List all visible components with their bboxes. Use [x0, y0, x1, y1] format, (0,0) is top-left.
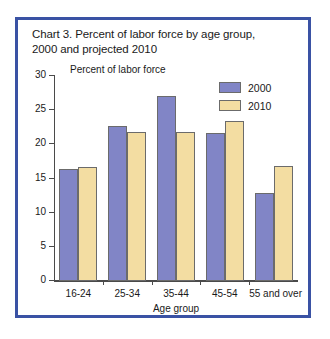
- x-axis-tick-label: 25-34: [103, 288, 152, 299]
- chart-title-line-1: Chart 3. Percent of labor force by age g…: [32, 27, 304, 42]
- y-axis-label: Percent of labor force: [70, 64, 166, 75]
- bar-2010-35-44: [176, 132, 195, 281]
- bar-2000-55-and-over: [255, 193, 274, 281]
- chart-title-line-2: 2000 and projected 2010: [32, 42, 304, 57]
- legend-item-2000: 2000: [219, 80, 297, 95]
- chart-legend: 20002010: [219, 80, 297, 116]
- x-axis-tick: [249, 281, 250, 285]
- bar-2010-55-and-over: [274, 166, 293, 281]
- chart-frame: Chart 3. Percent of labor force by age g…: [15, 17, 311, 318]
- x-axis-tick: [152, 281, 153, 285]
- y-axis-tick-label: 30: [20, 70, 46, 80]
- x-axis-tick-label: 55 and over: [249, 288, 298, 299]
- screenshot-root: Chart 3. Percent of labor force by age g…: [0, 0, 330, 339]
- bar-2010-16-24: [78, 167, 97, 281]
- bar-2000-25-34: [108, 126, 127, 281]
- chart-title: Chart 3. Percent of labor force by age g…: [32, 27, 304, 56]
- y-axis-tick-label: 0: [20, 275, 46, 285]
- legend-item-2010: 2010: [219, 98, 297, 113]
- y-axis-tick-label: 10: [20, 207, 46, 217]
- bar-2010-45-54: [225, 121, 244, 281]
- x-axis-tick-label: 16-24: [54, 288, 103, 299]
- bar-2000-16-24: [59, 169, 78, 281]
- x-axis-tick: [200, 281, 201, 285]
- y-axis-tick-label: 15: [20, 173, 46, 183]
- x-axis-title: Age group: [54, 303, 298, 314]
- x-axis-tick-label: 45-54: [200, 288, 249, 299]
- legend-label: 2010: [248, 100, 271, 112]
- bar-2000-35-44: [157, 96, 176, 281]
- x-axis-tick-label: 35-44: [152, 288, 201, 299]
- legend-label: 2000: [248, 82, 271, 94]
- y-axis-tick-label: 25: [20, 104, 46, 114]
- x-axis-tick: [103, 281, 104, 285]
- bar-2010-25-34: [127, 132, 146, 281]
- y-axis-tick-label: 20: [20, 138, 46, 148]
- legend-swatch-icon: [219, 100, 241, 111]
- legend-swatch-icon: [219, 82, 241, 93]
- bar-2000-45-54: [206, 133, 225, 281]
- y-axis-tick-label: 5: [20, 241, 46, 251]
